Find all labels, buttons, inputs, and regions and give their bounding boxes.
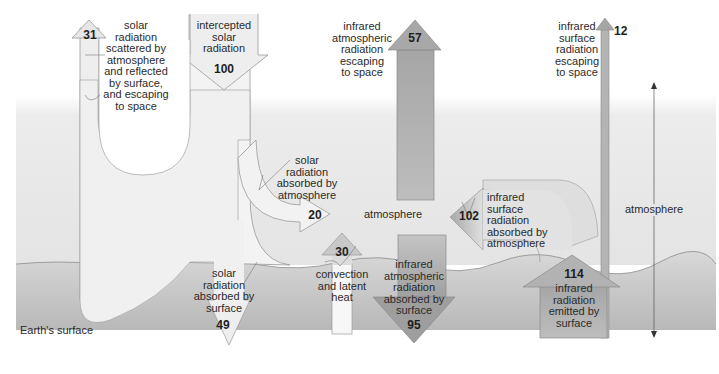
energy-budget-diagram: 31 solar radiation scattered by atmosphe… bbox=[0, 0, 719, 374]
value-31: 31 bbox=[82, 28, 98, 42]
label-ir-surface-absorbed: infrared surface radiation absorbed by a… bbox=[487, 192, 557, 250]
scale-arrow-down bbox=[651, 331, 657, 338]
atmosphere-scale-label: atmosphere bbox=[622, 204, 686, 216]
value-20: 20 bbox=[305, 208, 325, 222]
label-convection: convection and latent heat bbox=[310, 269, 374, 304]
value-114: 114 bbox=[560, 267, 588, 281]
value-102: 102 bbox=[455, 209, 483, 223]
scale-arrow-up bbox=[651, 82, 657, 89]
label-solar-escaping: solar radiation scattered by atmosphere … bbox=[100, 20, 172, 112]
label-ir-atmo-escaping: infrared atmospheric radiation escaping … bbox=[332, 21, 392, 79]
value-95: 95 bbox=[400, 318, 428, 332]
value-57: 57 bbox=[400, 31, 430, 45]
value-100: 100 bbox=[200, 62, 248, 76]
label-ir-surface-escaping: infrared surface radiation escaping to s… bbox=[555, 21, 599, 79]
label-solar-absorbed-surface: solar radiation absorbed by surface bbox=[192, 268, 256, 314]
value-12: 12 bbox=[614, 24, 634, 38]
label-ir-emitted: infrared radiation emitted by surface bbox=[542, 283, 606, 329]
label-intercepted-solar: intercepted solar radiation bbox=[190, 20, 258, 55]
atmosphere-label: atmosphere bbox=[358, 209, 428, 221]
value-49: 49 bbox=[213, 318, 233, 332]
label-ir-atmo-absorbed-surface: infrared atmospheric radiation absorbed … bbox=[382, 259, 446, 317]
label-solar-absorbed-atmosphere: solar radiation absorbed by atmosphere bbox=[276, 155, 338, 201]
ir-atmo-escaping-shaft bbox=[397, 50, 434, 200]
value-30: 30 bbox=[332, 245, 352, 259]
earth-surface-label: Earth's surface bbox=[20, 325, 93, 337]
